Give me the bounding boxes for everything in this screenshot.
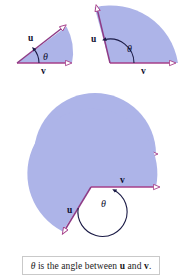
reflex-label-theta: θ [101,198,106,209]
obtuse-sector-fill [95,5,178,63]
panel-acute-angle: u v θ [17,27,73,77]
caption-text-part-2: and [125,261,144,271]
caption-text-part-3: . [149,261,151,271]
acute-label-u: u [28,33,34,43]
vector-diagram: u v θ u v θ [0,0,182,279]
obtuse-label-theta: θ [127,43,132,54]
acute-label-theta: θ [43,51,48,62]
reflex-label-v: v [120,175,125,185]
acute-label-v: v [41,66,46,76]
reflex-label-u: u [67,205,73,215]
obtuse-label-v: v [141,66,146,76]
figure-caption-box: θ is the angle between u and v. [22,256,160,275]
obtuse-label-u: u [91,34,97,44]
vector-angle-figure: u v θ u v θ [0,0,182,279]
caption-text-part-1: is the angle between [35,261,119,271]
panel-obtuse-angle: u v θ [91,5,178,76]
figure-caption-text: θ is the angle between u and v. [31,261,152,271]
panel-reflex-angle: u v θ [27,109,157,237]
